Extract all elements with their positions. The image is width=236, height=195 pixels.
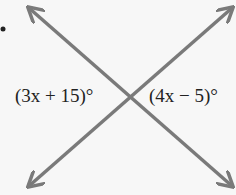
angle-label-left: (3x + 15)° — [15, 85, 93, 107]
bullet-dot — [1, 27, 6, 32]
angle-label-right: (4x − 5)° — [149, 85, 218, 107]
